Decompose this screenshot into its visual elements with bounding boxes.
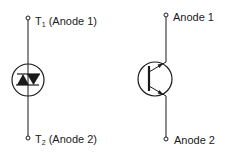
- terminal-suffix: (Anode 1): [46, 15, 97, 27]
- right-upper-emitter: [149, 62, 166, 72]
- upper-arrow-icon: [158, 64, 164, 69]
- right-triangle-down-icon: [27, 74, 40, 85]
- right-top-terminal-icon: [164, 13, 168, 17]
- right-bottom-terminal-label: Anode 2: [174, 134, 215, 146]
- left-symbol: [12, 16, 44, 140]
- right-symbol: [138, 13, 172, 141]
- left-bottom-terminal-icon: [26, 136, 30, 140]
- right-lower-emitter: [149, 86, 166, 96]
- terminal-letter: T: [35, 15, 42, 27]
- left-triangle-up-icon: [17, 74, 29, 85]
- right-device-circle: [138, 62, 172, 96]
- terminal-letter: T: [35, 133, 42, 145]
- terminal-suffix: (Anode 2): [46, 133, 97, 145]
- right-top-terminal-label: Anode 1: [173, 11, 214, 23]
- left-top-terminal-label: T1 (Anode 1): [35, 15, 97, 27]
- left-bottom-terminal-label: T2 (Anode 2): [35, 133, 97, 145]
- left-top-terminal-icon: [26, 16, 30, 20]
- lower-arrow-icon: [158, 90, 164, 95]
- right-bottom-terminal-icon: [164, 137, 168, 141]
